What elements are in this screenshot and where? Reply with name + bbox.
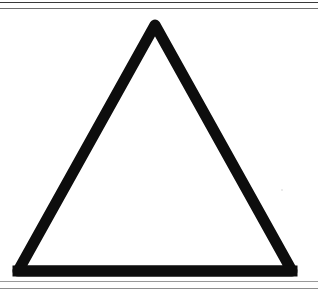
page-rule-bottom-inner [0,281,318,282]
figure-canvas [0,9,318,281]
triangle-shape [0,9,318,281]
scan-speck [281,189,283,191]
page-rule-top-outer [0,2,318,3]
triangle-base-bar [13,266,298,277]
figure-page: Outlined equilateral-style triangle (del… [0,0,318,293]
page-rule-bottom-outer [0,288,318,289]
